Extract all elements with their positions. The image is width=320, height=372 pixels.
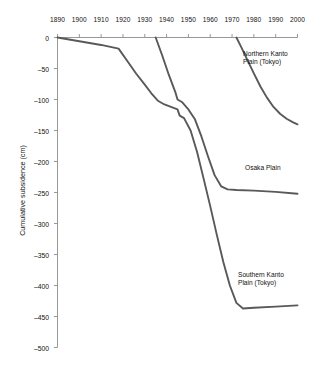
- x-tick-label: 1910: [94, 16, 109, 23]
- x-tick-label: 2000: [290, 16, 305, 23]
- y-tick-label: –350: [0, 251, 49, 258]
- x-tick-label: 1900: [72, 16, 87, 23]
- subsidence-chart: 1890190019101920193019401950196019701980…: [0, 0, 320, 372]
- series-label-line: Plain (Tokyo): [243, 58, 288, 66]
- x-tick-label: 1930: [137, 16, 152, 23]
- x-tick-label: 1950: [181, 16, 196, 23]
- y-tick-label: –500: [0, 344, 49, 351]
- x-tick-label: 1920: [115, 16, 130, 23]
- series-label-osaka: Osaka Plain: [245, 164, 281, 172]
- series-label-line: Osaka Plain: [245, 164, 281, 172]
- y-tick-label: –450: [0, 313, 49, 320]
- y-tick-label: 0: [0, 34, 49, 41]
- y-tick-label: –50: [0, 65, 49, 72]
- x-tick-label: 1960: [203, 16, 218, 23]
- series-label-line: Northern Kanto: [243, 50, 288, 58]
- series-label-southern-kanto: Southern KantoPlain (Tokyo): [238, 271, 284, 288]
- x-tick-label: 1980: [246, 16, 261, 23]
- chart-series-lines: [58, 38, 298, 309]
- x-tick-label: 1940: [159, 16, 174, 23]
- y-tick-label: –400: [0, 282, 49, 289]
- x-tick-label: 1990: [268, 16, 283, 23]
- x-tick-label: 1970: [224, 16, 239, 23]
- series-line: [58, 38, 298, 309]
- y-tick-label: –100: [0, 96, 49, 103]
- series-label-line: Plain (Tokyo): [238, 279, 284, 287]
- x-tick-label: 1890: [50, 16, 65, 23]
- series-label-northern-kanto: Northern KantoPlain (Tokyo): [243, 50, 288, 67]
- series-label-line: Southern Kanto: [238, 271, 284, 279]
- y-axis-title: Cumulative subsidence (cm): [18, 131, 27, 251]
